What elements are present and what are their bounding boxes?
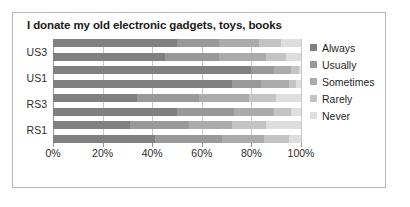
chart-title: I donate my old electronic gadgets, toys… xyxy=(27,19,282,31)
bar-segment-always xyxy=(53,66,251,74)
bar-row xyxy=(53,80,301,88)
bar-row xyxy=(53,94,301,102)
y-axis-label-us3: US3 xyxy=(27,46,47,58)
bar-row xyxy=(53,121,301,129)
bar-segment-rarely xyxy=(274,108,291,116)
bar-segment-usually xyxy=(137,94,199,102)
y-axis-label-rs3: RS3 xyxy=(27,98,47,110)
bar-row xyxy=(53,135,301,143)
legend-swatch-icon xyxy=(310,61,317,68)
legend-swatch-icon xyxy=(310,112,317,119)
x-axis-label-40: 40% xyxy=(142,147,163,159)
bar-segment-sometimes xyxy=(199,94,249,102)
gridline-100 xyxy=(301,39,302,143)
y-axis-label-us1: US1 xyxy=(27,72,47,84)
legend-item-never[interactable]: Never xyxy=(310,107,386,124)
bar-segment-rarely xyxy=(249,94,276,102)
bar-row xyxy=(53,53,301,61)
bar-segment-sometimes xyxy=(261,80,288,88)
x-axis-label-100: 100% xyxy=(288,147,315,159)
bar-segment-never xyxy=(286,53,301,61)
bar-segment-sometimes xyxy=(274,66,291,74)
legend-label: Sometimes xyxy=(322,76,375,88)
x-axis-label-80: 80% xyxy=(241,147,262,159)
bar-segment-sometimes xyxy=(189,121,231,129)
bar-segment-usually xyxy=(177,108,234,116)
bar-segment-always xyxy=(53,121,130,129)
bar-segment-rarely xyxy=(264,135,289,143)
bar-segment-always xyxy=(53,53,165,61)
bar-series-group xyxy=(53,39,301,143)
bar-segment-rarely xyxy=(266,53,286,61)
bar-segment-never xyxy=(296,80,301,88)
bar-segment-usually xyxy=(130,121,190,129)
bar-segment-rarely xyxy=(232,121,267,129)
bar-segment-never xyxy=(291,108,301,116)
bar-segment-always xyxy=(53,39,177,47)
bar-segment-never xyxy=(266,121,301,129)
bar-segment-usually xyxy=(177,39,219,47)
legend-item-usually[interactable]: Usually xyxy=(310,56,386,73)
bar-segment-never xyxy=(281,39,301,47)
legend-swatch-icon xyxy=(310,95,317,102)
x-axis-labels: 0%20%40%60%80%100% xyxy=(53,147,301,163)
bar-segment-usually xyxy=(232,80,262,88)
x-axis-label-60: 60% xyxy=(191,147,212,159)
legend-label: Usually xyxy=(322,59,356,71)
bar-segment-sometimes xyxy=(234,108,274,116)
bar-segment-never xyxy=(289,135,301,143)
chart-container: I donate my old electronic gadgets, toys… xyxy=(12,12,386,188)
bar-segment-always xyxy=(53,94,137,102)
legend-label: Always xyxy=(322,42,355,54)
legend-item-sometimes[interactable]: Sometimes xyxy=(310,73,386,90)
legend-item-rarely[interactable]: Rarely xyxy=(310,90,386,107)
bar-segment-never xyxy=(299,66,301,74)
bar-segment-usually xyxy=(165,53,220,61)
bar-segment-always xyxy=(53,108,177,116)
bar-segment-always xyxy=(53,80,232,88)
y-axis-label-rs1: RS1 xyxy=(27,124,47,136)
bar-row xyxy=(53,108,301,116)
legend-label: Rarely xyxy=(322,93,352,105)
bar-segment-usually xyxy=(155,135,222,143)
bar-row xyxy=(53,39,301,47)
bar-segment-sometimes xyxy=(219,53,266,61)
plot-area xyxy=(53,39,301,143)
legend-swatch-icon xyxy=(310,44,317,51)
bar-segment-never xyxy=(276,94,301,102)
x-axis-label-0: 0% xyxy=(45,147,60,159)
chart-legend: AlwaysUsuallySometimesRarelyNever xyxy=(310,39,386,124)
bar-segment-rarely xyxy=(291,66,298,74)
legend-swatch-icon xyxy=(310,78,317,85)
legend-label: Never xyxy=(322,110,350,122)
bar-segment-usually xyxy=(251,66,273,74)
x-axis-label-20: 20% xyxy=(92,147,113,159)
legend-item-always[interactable]: Always xyxy=(310,39,386,56)
bar-row xyxy=(53,66,301,74)
y-axis-labels: US3US1RS3RS1 xyxy=(13,39,51,143)
bar-segment-rarely xyxy=(259,39,281,47)
bar-segment-rarely xyxy=(289,80,296,88)
bar-segment-sometimes xyxy=(219,39,259,47)
bar-segment-always xyxy=(53,135,155,143)
bar-segment-sometimes xyxy=(222,135,264,143)
